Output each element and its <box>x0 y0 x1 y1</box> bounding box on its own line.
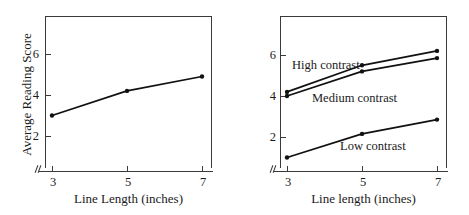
series-canvas-right <box>0 0 469 215</box>
figure: 6 4 2 3 5 7 Line Length (inches) Average… <box>0 0 469 215</box>
series-line-low-contrast <box>287 120 437 158</box>
